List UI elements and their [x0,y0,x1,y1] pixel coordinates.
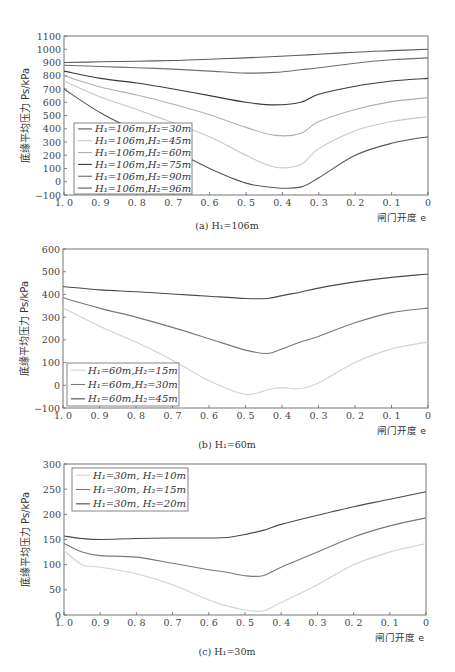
legend-label: H₁=106m,H₂=75m [94,159,191,170]
y-tick-label: 50 [49,584,61,595]
series-line [63,298,428,354]
x-tick-label: 0. 1 [381,617,399,628]
y-tick-label: 200 [43,150,61,161]
legend-label: H₁=106m,H₂=90m [94,171,191,182]
x-axis-title: 闸门开度 e [377,425,426,436]
y-tick-label: 300 [43,137,61,148]
legend-label: H₁=106m,H₂=45m [94,135,191,146]
x-tick-label: 0. 3 [309,410,327,421]
legend-label: H₁=60m,H₂=15m [87,365,178,376]
y-axis-ticks: 110010009008007006005004003002001000−100 [35,31,67,201]
y-tick-label: 150 [43,534,61,545]
y-tick-label: 1100 [37,31,61,42]
y-tick-label: 0 [55,176,61,187]
y-tick-label: 400 [42,289,60,300]
y-tick-label: 200 [42,334,60,345]
legend-label: H₁=30m, H₂=10m [92,470,186,481]
y-tick-label: 200 [43,509,61,520]
y-tick-label: 100 [43,559,61,570]
series-line [64,518,426,577]
x-axis-title: 闸门开度 e [377,212,426,223]
y-tick-label: 250 [43,484,61,495]
figure-caption-faded [40,656,380,670]
legend-label: H₁=106m,H₂=60m [94,147,191,158]
y-tick-label: 1000 [37,44,61,55]
x-tick-label: 1. 0 [55,197,73,208]
x-tick-label: 0. 6 [200,617,218,628]
y-tick-label: 800 [43,70,61,81]
series-line [64,49,428,62]
x-tick-label: 0. 5 [237,197,255,208]
y-axis-ticks: 300250200150100500 [43,459,67,621]
y-tick-label: 100 [42,357,60,368]
x-tick-label: 0. 8 [128,197,146,208]
y-axis-title: 底缘平均压力 Ps/kPa [18,281,30,376]
x-tick-label: 0. 1 [383,197,401,208]
legend-label: H₁=60m,H₂=30m [87,379,178,390]
x-axis-title: 闸门开度 e [375,632,424,643]
y-tick-label: 500 [43,110,61,121]
x-tick-label: 0. 8 [127,410,145,421]
chart-panel-c: 3002502001501005001. 00. 90. 80. 70. 60.… [19,459,429,658]
legend-label: H₁=106m,H₂=30m [94,123,191,134]
x-tick-label: 0. 3 [310,197,328,208]
legend: H₁=60m,H₂=15mH₁=60m,H₂=30mH₁=60m,H₂=45m [67,363,179,406]
x-tick-label: 0. 9 [91,617,109,628]
legend-label: H₁=30m, H₂=20m [92,498,186,509]
legend-label: H₁=30m, H₂=15m [92,484,186,495]
y-axis-title: 底缘平均压力 Ps/kPa [19,492,31,587]
panel-caption: (b) H₁=60m [198,439,256,450]
y-tick-label: 300 [43,459,61,470]
x-tick-label: 1. 0 [55,617,73,628]
x-tick-label: 0. 1 [382,410,400,421]
x-tick-label: 1. 0 [54,410,72,421]
x-tick-label: 0. 6 [201,197,219,208]
x-tick-label: 0. 9 [91,197,109,208]
x-tick-label: 0 [423,617,429,628]
legend: H₁=106m,H₂=30mH₁=106m,H₂=45mH₁=106m,H₂=6… [74,123,192,194]
x-tick-label: 0. 4 [272,617,290,628]
series-line [63,274,428,299]
legend-label: H₁=106m,H₂=96m [94,183,191,194]
figure-canvas: 110010009008007006005004003002001000−100… [0,0,455,672]
y-tick-label: 100 [43,163,61,174]
y-tick-label: 400 [43,123,61,134]
y-tick-label: 0 [54,380,60,391]
legend-label: H₁=60m,H₂=45m [87,393,178,404]
x-axis-ticks: 1. 00. 90. 80. 70. 60. 50. 40. 30. 20. 1… [55,612,429,628]
x-tick-label: 0. 4 [273,410,291,421]
y-tick-label: 600 [42,244,60,255]
x-tick-label: 0 [425,410,431,421]
series-line [64,544,426,612]
x-tick-label: 0. 7 [164,197,182,208]
x-tick-label: 0. 5 [236,617,254,628]
y-tick-label: 600 [43,97,61,108]
x-tick-label: 0. 8 [127,617,145,628]
series-line [64,71,428,105]
x-tick-label: 0. 3 [308,617,326,628]
series-line [64,58,428,73]
panel-caption: (a) H₁=106m [195,220,258,231]
x-tick-label: 0. 2 [346,197,364,208]
x-tick-label: 0. 9 [90,410,108,421]
x-tick-label: 0. 2 [345,617,363,628]
y-tick-label: 300 [42,312,60,323]
y-tick-label: 900 [43,57,61,68]
y-axis-ticks: 6005004003002001000−100 [34,244,66,414]
x-tick-label: 0 [425,197,431,208]
chart-panel-a: 110010009008007006005004003002001000−100… [19,31,431,232]
x-tick-label: 0. 2 [346,410,364,421]
y-tick-label: 700 [43,84,61,95]
x-tick-label: 0. 7 [163,410,181,421]
x-axis-ticks: 1. 00. 90. 80. 70. 60. 50. 40. 30. 20. 1… [54,405,431,421]
y-axis-title: 底缘平均压力 Ps/kPa [19,68,31,163]
x-tick-label: 0. 4 [273,197,291,208]
x-tick-label: 0. 5 [236,410,254,421]
y-tick-label: 500 [42,266,60,277]
x-tick-label: 0. 7 [164,617,182,628]
x-tick-label: 0. 6 [200,410,218,421]
chart-panel-b: 6005004003002001000−1001. 00. 90. 80. 70… [18,244,431,451]
legend: H₁=30m, H₂=10mH₁=30m, H₂=15mH₁=30m, H₂=2… [72,468,188,511]
